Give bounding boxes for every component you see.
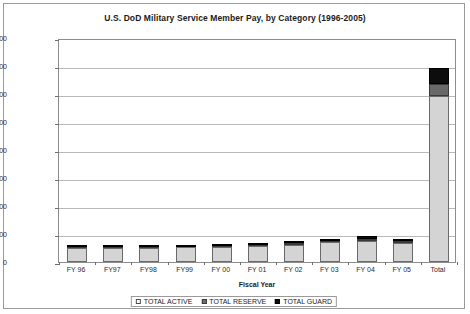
bar-fy00 [212,245,232,262]
gridline [59,208,455,209]
x-tick-mark [421,262,422,265]
bar-segment-total-active [67,248,87,262]
gridline [59,180,455,181]
legend-item-total-reserve: TOTAL RESERVE [201,298,266,305]
x-tick-mark [312,262,313,265]
x-tick-mark [385,262,386,265]
bar-segment-total-guard [393,239,413,241]
bar-segment-total-active [103,248,123,262]
bar-segment-total-reserve [429,84,449,96]
bar-fy05 [393,239,413,262]
y-tick-label: 500000 [0,119,7,126]
bar-segment-total-guard [320,239,340,241]
x-tick-label: Total [413,266,463,273]
x-tick-mark [95,262,96,265]
bar-fy97 [103,246,123,262]
x-axis-title: Fiscal Year [58,281,456,288]
y-tick-label: 400000 [0,147,7,154]
y-tick-mark [55,68,59,69]
x-tick-mark [348,262,349,265]
gridline [59,96,455,97]
gridline [59,236,455,237]
y-tick-mark [55,152,59,153]
bar-segment-total-guard [139,245,159,247]
y-tick-mark [55,208,59,209]
x-tick-mark [59,262,60,265]
bar-segment-total-active [212,247,232,262]
bar-segment-total-guard [284,241,304,243]
bar-segment-total-active [429,96,449,262]
bar-segment-total-guard [67,245,87,247]
bar-fy04 [357,236,377,262]
y-tick-mark [55,236,59,237]
bar-segment-total-active [248,246,268,262]
y-tick-label: 300000 [0,175,7,182]
bar-segment-total-active [284,245,304,262]
gridline [59,68,455,69]
bar-segment-total-guard [176,245,196,247]
legend-swatch-active-icon [136,299,141,304]
y-tick-label: 0 [0,259,7,266]
bar-segment-total-guard [357,236,377,239]
y-tick-label: 800000 [0,35,7,42]
bar-fy98 [139,246,159,262]
x-tick-mark [168,262,169,265]
bar-fy96 [67,246,87,262]
y-tick-mark [55,96,59,97]
bar-segment-total-active [139,248,159,262]
gridline [59,152,455,153]
bar-segment-total-guard [103,245,123,247]
bar-segment-total-active [320,242,340,262]
legend-label-total-guard: TOTAL GUARD [283,298,332,305]
y-tick-label: 700000 [0,63,7,70]
bar-segment-total-active [176,247,196,262]
chart-legend: TOTAL ACTIVE TOTAL RESERVE TOTAL GUARD [131,296,337,307]
bar-fy01 [248,244,268,262]
x-tick-mark [204,262,205,265]
legend-label-total-reserve: TOTAL RESERVE [209,298,266,305]
y-tick-mark [55,40,59,41]
bar-total [429,68,449,262]
legend-item-total-active: TOTAL ACTIVE [136,298,193,305]
bar-segment-total-active [357,241,377,262]
x-tick-mark [457,262,458,265]
y-tick-label: 600000 [0,91,7,98]
x-tick-mark [131,262,132,265]
legend-label-total-active: TOTAL ACTIVE [144,298,193,305]
y-tick-mark [55,180,59,181]
bar-fy99 [176,245,196,262]
bar-segment-total-guard [429,68,449,84]
legend-item-total-guard: TOTAL GUARD [275,298,332,305]
legend-swatch-guard-icon [275,299,280,304]
legend-swatch-reserve-icon [201,299,206,304]
bar-segment-total-active [393,243,413,262]
bar-segment-total-reserve [357,239,377,241]
bar-segment-total-guard [212,244,232,246]
bar-segment-total-guard [248,243,268,245]
x-tick-mark [276,262,277,265]
y-tick-label: 200000 [0,203,7,210]
y-tick-mark [55,124,59,125]
x-tick-mark [240,262,241,265]
chart-title: U.S. DoD Military Service Member Pay, by… [4,13,466,23]
bar-fy03 [320,238,340,262]
gridline [59,124,455,125]
plot-area [58,39,456,263]
chart-frame: U.S. DoD Military Service Member Pay, by… [3,3,465,309]
bar-fy02 [284,242,304,262]
y-tick-label: 100000 [0,231,7,238]
